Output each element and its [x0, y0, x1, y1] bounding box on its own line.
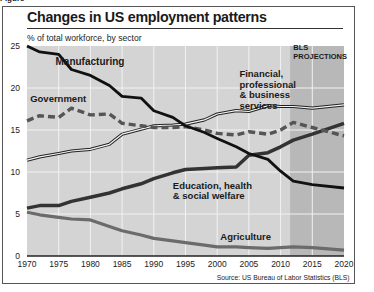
line-chart: 1970197519801985199019952000200520102015… — [0, 0, 374, 292]
source-note: Source: US Bureau of Labor Statistics (B… — [217, 273, 350, 282]
projection-region — [290, 46, 344, 256]
label-agriculture: Agriculture — [220, 231, 271, 242]
y-tick-label: 20 — [11, 83, 21, 93]
y-tick-label: 25 — [11, 41, 21, 51]
label-projections: BLSPROJECTIONS — [293, 43, 347, 61]
label-government: Government — [30, 93, 87, 104]
x-tick-label: 2000 — [208, 259, 227, 269]
x-tick-label: 1980 — [81, 259, 100, 269]
label-manufacturing: Manufacturing — [56, 56, 125, 67]
x-tick-label: 1970 — [18, 259, 37, 269]
x-tick-label: 1985 — [113, 259, 132, 269]
x-tick-label: 1995 — [176, 259, 195, 269]
label-education: Education, health& social welfare — [173, 180, 252, 202]
x-tick-label: 1990 — [144, 259, 163, 269]
y-tick-label: 5 — [15, 209, 20, 219]
y-tick-label: 10 — [11, 167, 21, 177]
x-tick-label: 2010 — [271, 259, 290, 269]
x-tick-label: 1975 — [49, 259, 68, 269]
x-tick-label: 2020 — [335, 259, 354, 269]
x-tick-label: 2005 — [239, 259, 258, 269]
y-tick-label: 15 — [11, 125, 21, 135]
x-tick-label: 2015 — [303, 259, 322, 269]
y-tick-label: 0 — [15, 251, 20, 261]
